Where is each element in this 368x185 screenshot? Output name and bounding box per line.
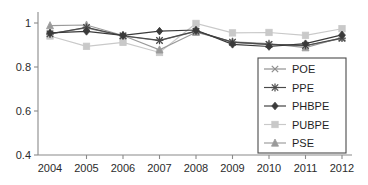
chart-legend: POEPPEPHBPEPUBPEPSE <box>258 58 346 153</box>
marker-square <box>229 30 235 36</box>
series-pubpe <box>47 20 345 55</box>
chart-canvas: 0.40.60.81200420052006200720082009201020… <box>0 0 368 185</box>
y-tick-label: 1 <box>25 17 31 29</box>
legend-label-phbpe: PHBPE <box>292 100 329 112</box>
line-chart: 0.40.60.81200420052006200720082009201020… <box>0 0 368 185</box>
legend-label-ppe: PPE <box>292 82 314 94</box>
y-tick-label: 0.4 <box>16 149 31 161</box>
x-tick-label: 2010 <box>257 162 281 174</box>
y-tick-label: 0.8 <box>16 61 31 73</box>
legend-label-poe: POE <box>292 63 315 75</box>
legend-label-pubpe: PUBPE <box>292 119 329 131</box>
x-tick-label: 2007 <box>147 162 171 174</box>
marker-square <box>120 39 126 45</box>
x-tick-label: 2011 <box>294 162 318 174</box>
legend-label-pse: PSE <box>292 137 314 149</box>
marker-square <box>272 121 278 127</box>
x-tick-label: 2009 <box>220 162 244 174</box>
y-tick-label: 0.6 <box>16 105 31 117</box>
marker-square <box>266 29 272 35</box>
x-tick-label: 2008 <box>184 162 208 174</box>
x-tick-label: 2005 <box>74 162 98 174</box>
x-tick-label: 2004 <box>38 162 62 174</box>
marker-square <box>302 32 308 38</box>
marker-diamond <box>156 27 162 35</box>
x-tick-label: 2012 <box>330 162 354 174</box>
marker-square <box>83 43 89 49</box>
x-tick-label: 2006 <box>111 162 135 174</box>
